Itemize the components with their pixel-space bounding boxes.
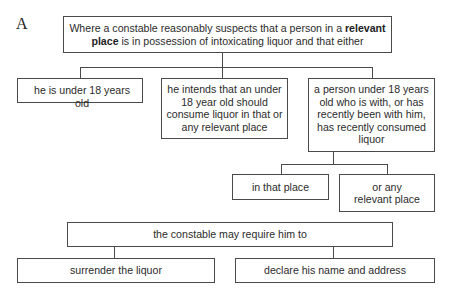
- root-condition-text: Where a constable reasonably suspects th…: [68, 22, 387, 48]
- connector: [222, 53, 223, 67]
- sub-condition-text: or any relevant place: [354, 181, 420, 206]
- sub-condition-text: in that place: [252, 181, 309, 194]
- root-text-before: Where a constable reasonably suspects th…: [69, 22, 345, 34]
- condition-text: he intends that an under 18 year old sho…: [166, 83, 283, 133]
- connector: [387, 164, 388, 174]
- connector: [222, 67, 223, 78]
- connector: [114, 247, 115, 258]
- connector: [372, 67, 373, 78]
- connector: [281, 164, 282, 174]
- condition-box-intends: he intends that an under 18 year old sho…: [161, 78, 288, 139]
- connector: [80, 67, 81, 78]
- connector: [333, 247, 334, 258]
- consequence-text: the constable may require him to: [153, 228, 307, 241]
- figure-label: A: [16, 15, 28, 33]
- consequence-box: the constable may require him to: [67, 222, 393, 247]
- root-text-after: is in possession of intoxicating liquor …: [119, 35, 364, 47]
- action-box-surrender: surrender the liquor: [17, 258, 215, 283]
- root-condition-box: Where a constable reasonably suspects th…: [63, 16, 392, 53]
- action-box-declare: declare his name and address: [235, 258, 435, 283]
- condition-text: a person under 18 years old who is with,…: [313, 83, 430, 146]
- condition-box-person-under-18: a person under 18 years old who is with,…: [308, 78, 435, 152]
- sub-condition-box-that-place: in that place: [232, 174, 329, 200]
- connector: [333, 152, 334, 164]
- action-text: surrender the liquor: [70, 264, 162, 277]
- condition-text: he is under 18 years old: [26, 84, 138, 109]
- connector: [80, 67, 373, 68]
- sub-condition-box-any-relevant-place: or any relevant place: [339, 174, 435, 212]
- connector: [281, 164, 388, 165]
- action-text: declare his name and address: [264, 264, 406, 277]
- condition-box-under-18: he is under 18 years old: [17, 78, 143, 103]
